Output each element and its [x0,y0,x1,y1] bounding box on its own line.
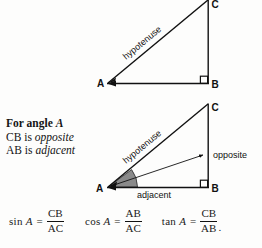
triangle-top-group: A B C hypotenuse [97,0,219,90]
prose-adjacent-line: AB is adjacent [6,144,102,158]
formula-sine-numerator: CB [47,208,64,221]
formula-tangent-function: tan [162,215,176,227]
prose-heading-prefix: For angle [6,117,53,129]
formula-cosine-argument: A [104,215,111,227]
prose-heading-variable: A [56,117,64,129]
formula-cosine-fraction: AB AC [125,208,142,234]
formula-tangent-equals: = [190,215,196,227]
prose-adjacent-prefix: AB is [6,144,33,156]
formula-tangent-numerator: CB [200,208,217,221]
figure-page: A B C hypotenuse A B C [0,0,262,248]
formula-sine-equals: = [36,215,42,227]
triangle-top-vertex-label-C: C [212,0,219,10]
triangle-bottom-vertex-label-C: C [212,102,219,113]
triangle-top-right-angle-marker [200,76,207,83]
formula-tangent-trailing: . [218,221,221,234]
formula-sine-denominator: AC [47,222,64,235]
formula-sine-argument: A [26,215,33,227]
formula-tangent-argument: A [179,215,186,227]
formula-cosine-numerator: AB [125,208,142,221]
triangle-bottom-opposite-label: opposite [213,150,247,160]
angle-description-block: For angle A CB is opposite AB is adjacen… [6,117,102,158]
trig-ratio-formula-row: sin A = CB AC cos A = AB AC tan [0,208,262,248]
formula-cosine-equals: = [114,215,120,227]
triangle-top-vertex-label-A: A [97,78,104,89]
formula-cosine-function: cos [85,215,101,227]
formula-cosine-denominator: AC [125,222,142,235]
triangle-top-hypotenuse-line [108,0,208,83]
triangle-bottom-adjacent-label: adjacent [137,190,172,200]
triangle-bottom-right-angle-marker [200,180,207,187]
triangle-top-vertex-label-B: B [212,79,219,90]
prose-heading-line: For angle A [6,117,102,131]
formula-tangent-denominator: AB [200,222,217,235]
formula-cosine: cos A = AB AC [85,208,143,234]
formula-sine-function: sin [9,215,23,227]
formula-tangent-fraction: CB AB [200,208,217,234]
triangle-bottom-vertex-label-B: B [212,183,219,194]
prose-adjacent-emphasis: adjacent [35,144,75,156]
formula-sine: sin A = CB AC [9,208,65,234]
formula-sine-fraction: CB AC [47,208,64,234]
triangle-bottom-group: A B C hypotenuse opposite adjacent [96,102,247,200]
prose-opposite-line: CB is opposite [6,131,102,145]
formula-tangent: tan A = CB AB . [162,208,221,234]
prose-opposite-emphasis: opposite [35,131,74,143]
triangle-bottom-hypotenuse-line [108,104,208,187]
triangle-bottom-vertex-label-A: A [96,183,103,194]
prose-opposite-prefix: CB is [6,131,32,143]
